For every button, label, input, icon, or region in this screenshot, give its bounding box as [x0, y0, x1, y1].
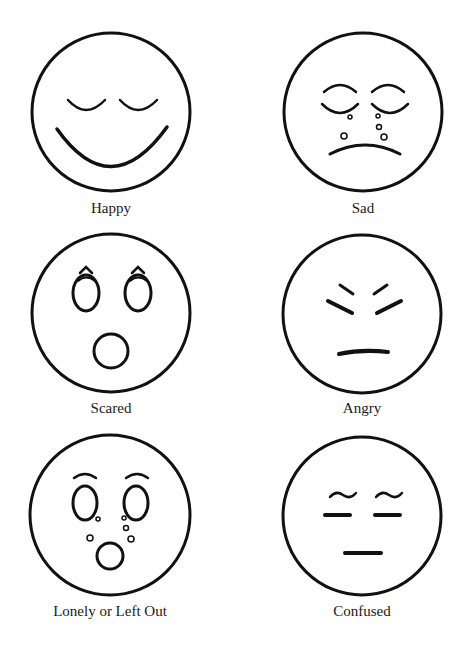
sad-face-icon — [284, 33, 442, 191]
face-label-scared: Scared — [11, 400, 211, 417]
face-label-sad: Sad — [263, 200, 463, 217]
angry-face-icon — [283, 235, 441, 393]
scared-face-icon — [32, 234, 190, 392]
confused-face-icon — [283, 437, 441, 595]
lonely-face-icon — [30, 435, 190, 595]
face-label-happy: Happy — [11, 200, 211, 217]
face-label-confused: Confused — [262, 603, 462, 620]
face-label-lonely: Lonely or Left Out — [10, 603, 210, 620]
happy-face-icon — [32, 33, 190, 191]
emotion-faces-sheet — [0, 0, 464, 651]
face-label-angry: Angry — [262, 400, 462, 417]
